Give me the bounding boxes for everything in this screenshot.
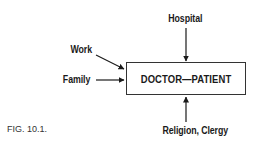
figure-caption: FIG. 10.1. bbox=[7, 124, 47, 134]
doctor-patient-box: DOCTOR—PATIENT bbox=[126, 62, 246, 95]
doctor-patient-label: DOCTOR—PATIENT bbox=[133, 73, 239, 85]
work-arrow bbox=[96, 55, 124, 69]
religion-clergy-label: Religion, Clergy bbox=[162, 125, 228, 136]
work-label: Work bbox=[70, 44, 91, 55]
family-label: Family bbox=[63, 74, 90, 85]
hospital-label: Hospital bbox=[168, 13, 202, 24]
